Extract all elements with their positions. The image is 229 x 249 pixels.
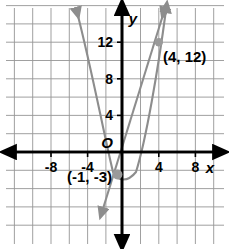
x-tick-label-neg8: -8 (45, 159, 58, 175)
x-axis-label: x (205, 159, 215, 176)
annotation-label-4-12: (4, 12) (163, 48, 206, 65)
point-marker-4-12 (155, 38, 163, 46)
y-axis-label: y (128, 10, 138, 27)
y-tick-label-12: 12 (97, 34, 113, 50)
annotation-label-neg1-neg3: (-1, -3) (67, 168, 112, 185)
y-tick-label-4: 4 (105, 107, 113, 123)
grid-lines (6, 6, 224, 244)
graph-figure: -8 -4 4 8 4 8 12 O x y (4, 12) (-1, -3) (0, 0, 229, 249)
x-tick-label-4: 4 (155, 159, 163, 175)
origin-label: O (101, 134, 113, 151)
point-marker-neg1-neg3 (112, 170, 122, 180)
y-tick-label-8: 8 (105, 71, 113, 87)
x-tick-label-8: 8 (192, 159, 200, 175)
